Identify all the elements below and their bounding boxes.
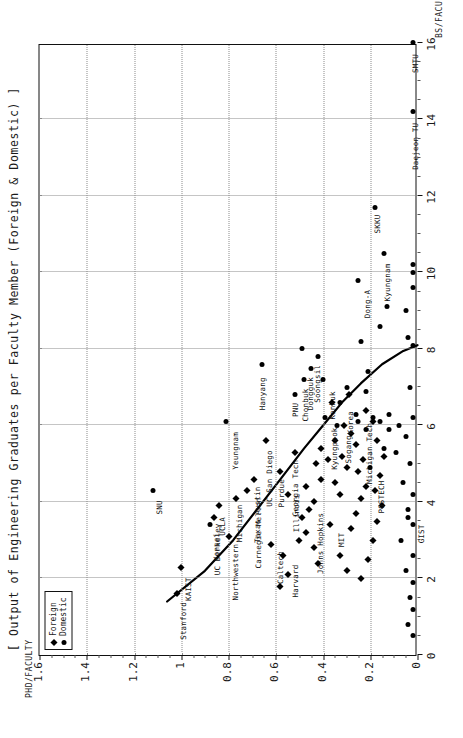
data-point-foreign [352,441,359,448]
x-tick [417,272,422,273]
data-point-domestic [259,362,264,367]
x-minor-tick [417,80,420,81]
data-point-domestic [358,339,363,344]
x-tick-label: 6 [424,423,437,430]
data-point-label: SKKU [372,215,381,234]
data-point-foreign [335,552,342,559]
y-minor-tick [145,655,146,658]
data-point-domestic [381,446,386,451]
data-point-foreign [267,541,274,548]
y-tick [370,655,371,660]
x-tick-label: 14 [424,114,437,127]
data-point-foreign [343,464,350,471]
x-minor-tick [417,214,420,215]
data-point-label: GIST [416,524,425,543]
legend-label-foreign: Foreign [48,602,58,636]
data-point-domestic [405,507,410,512]
data-point-foreign [172,590,179,597]
data-point-foreign [312,460,319,467]
y-minor-tick [204,655,205,658]
x-tick [417,348,422,349]
y-tick-label: 0.6 [268,662,281,690]
data-point-domestic [337,400,342,405]
x-tick [417,578,422,579]
data-point-domestic [377,419,382,424]
y-tick [181,655,182,660]
y-minor-tick [157,655,158,658]
data-point-foreign [310,498,317,505]
data-point-domestic [386,427,391,432]
y-minor-tick [346,655,347,658]
data-point-domestic [410,522,415,527]
domestic-marker-icon [61,640,66,645]
data-point-domestic [405,335,410,340]
y-minor-tick [405,655,406,658]
data-point-domestic [315,354,320,359]
data-point-domestic [353,412,358,417]
x-gridline [39,425,415,426]
x-minor-tick [417,252,420,253]
data-point-foreign [326,521,333,528]
data-point-label: Daejeon TU [410,123,419,170]
y-tick [39,655,40,660]
data-point-label: Michigan [234,504,243,542]
y-tick-label: 0.8 [221,662,234,690]
data-point-foreign [354,468,361,475]
data-point-domestic [377,324,382,329]
data-point-foreign [295,537,302,544]
data-point-label: Purdue [276,479,285,507]
data-point-domestic [320,377,325,382]
data-point-domestic [292,392,297,397]
data-point-domestic [355,278,360,283]
foreign-marker-icon [49,639,56,646]
data-point-domestic [386,412,391,417]
data-point-label: Stanford [178,602,187,640]
data-point-foreign [343,567,350,574]
data-point-domestic [400,480,405,485]
data-point-foreign [177,563,184,570]
x-gridline [39,272,415,273]
y-tick [228,655,229,660]
data-point-domestic [410,607,415,612]
y-minor-tick [252,655,253,658]
x-minor-tick [417,635,420,636]
y-minor-tick [240,655,241,658]
data-point-foreign [331,479,338,486]
data-point-label: Soongsil [312,365,321,403]
y-minor-tick [51,655,52,658]
y-minor-tick [287,655,288,658]
y-minor-tick [358,655,359,658]
data-point-domestic [223,419,228,424]
data-point-label: Kyungnam [382,264,391,302]
x-minor-tick [417,176,420,177]
x-gridline [39,119,415,120]
data-point-domestic [393,450,398,455]
y-tick-label: 1.4 [79,662,92,690]
data-point-foreign [250,476,257,483]
data-point-foreign [376,472,383,479]
x-minor-tick [417,616,420,617]
plot-area: StanfordKAISTNorthwesternUC BerkeleyUCLA… [38,44,416,656]
x-tick-label: 4 [424,500,437,507]
y-minor-tick [63,655,64,658]
data-point-domestic [150,488,155,493]
y-minor-tick [311,655,312,658]
data-point-label: Yonsei [211,533,220,561]
data-point-foreign [302,529,309,536]
y-tick-label: 0 [410,662,423,690]
data-point-label: KAIST [183,577,192,601]
data-point-domestic [355,419,360,424]
data-point-domestic [410,109,415,114]
data-point-domestic [410,580,415,585]
data-point-domestic [344,385,349,390]
data-point-domestic [372,205,377,210]
data-point-label: Yeungnam [230,432,239,470]
data-point-domestic [207,522,212,527]
data-point-label: MIT [336,533,345,547]
y-tick [134,655,135,660]
data-point-label: Michigan Tech [364,423,373,484]
legend-item-domestic: Domestic [58,597,68,645]
x-gridline [39,195,415,196]
data-point-domestic [363,427,368,432]
data-point-domestic [403,308,408,313]
